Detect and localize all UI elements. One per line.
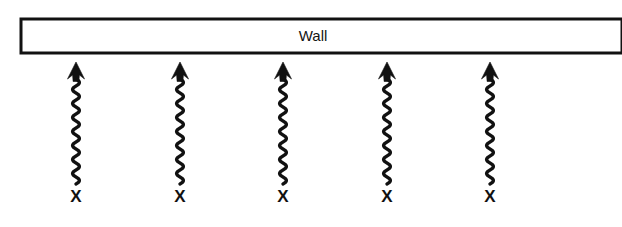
wavy-arrow: X — [68, 62, 85, 206]
source-marker-label: X — [70, 187, 82, 206]
wall-label: Wall — [299, 27, 328, 44]
wavy-shaft-icon — [73, 78, 80, 184]
arrowhead-icon — [68, 62, 85, 82]
arrowhead-icon — [482, 62, 499, 82]
source-marker-label: X — [174, 187, 186, 206]
wavy-arrow: X — [172, 62, 189, 206]
arrowhead-icon — [172, 62, 189, 82]
source-marker-label: X — [277, 187, 289, 206]
wavy-arrow: X — [275, 62, 292, 206]
arrowhead-icon — [275, 62, 292, 82]
arrowhead-icon — [379, 62, 396, 82]
wavy-shaft-icon — [487, 78, 494, 184]
wavy-arrow: X — [482, 62, 499, 206]
wavy-shaft-icon — [280, 78, 287, 184]
wavy-shaft-icon — [177, 78, 184, 184]
source-marker-label: X — [381, 187, 393, 206]
arrow-group: XXXXX — [68, 62, 499, 206]
source-marker-label: X — [484, 187, 496, 206]
diagram-svg: Wall XXXXX — [0, 0, 622, 227]
diagram-canvas: Wall XXXXX — [0, 0, 622, 227]
wavy-shaft-icon — [384, 78, 391, 184]
wavy-arrow: X — [379, 62, 396, 206]
